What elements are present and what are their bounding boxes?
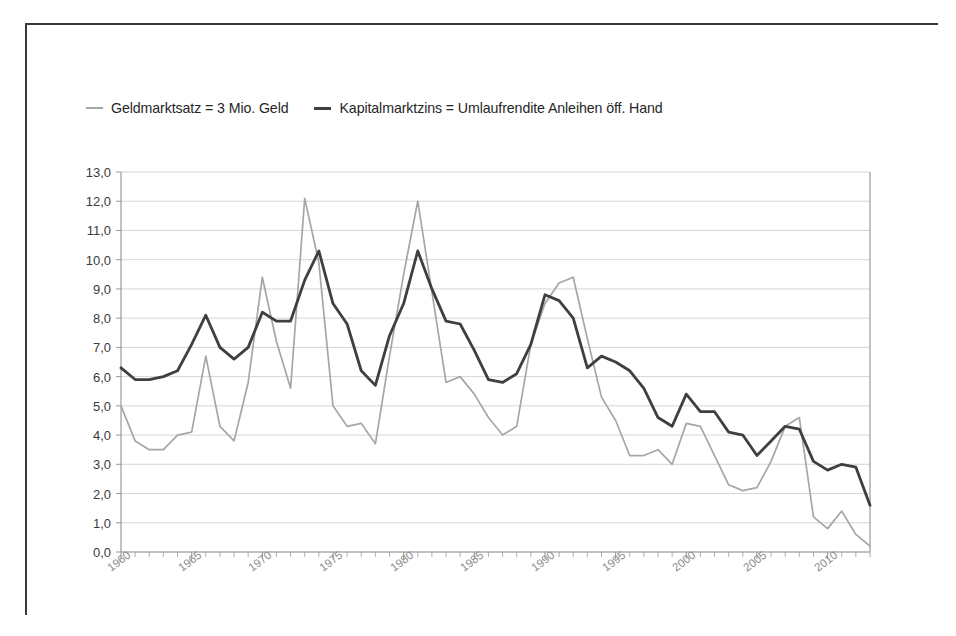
y-tick-label: 0,0 bbox=[65, 545, 111, 560]
y-tick-label: 7,0 bbox=[65, 340, 111, 355]
y-tick-label: 3,0 bbox=[65, 457, 111, 472]
chart-svg bbox=[0, 0, 956, 636]
y-tick-label: 5,0 bbox=[65, 398, 111, 413]
y-tick-label: 10,0 bbox=[65, 252, 111, 267]
chart-series-lines bbox=[121, 198, 870, 546]
y-tick-label: 9,0 bbox=[65, 281, 111, 296]
y-tick-label: 6,0 bbox=[65, 369, 111, 384]
y-tick-label: 12,0 bbox=[65, 194, 111, 209]
y-tick-label: 4,0 bbox=[65, 428, 111, 443]
chart-plot-area: 0,01,02,03,04,05,06,07,08,09,010,011,012… bbox=[0, 0, 956, 636]
y-tick-label: 8,0 bbox=[65, 311, 111, 326]
series-line-geldmarktsatz bbox=[121, 198, 870, 546]
page-canvas: Geldmarktsatz = 3 Mio. Geld Kapitalmarkt… bbox=[0, 0, 956, 636]
y-tick-label: 13,0 bbox=[65, 165, 111, 180]
chart-x-tickmarks bbox=[116, 172, 870, 559]
y-tick-label: 1,0 bbox=[65, 515, 111, 530]
y-tick-label: 11,0 bbox=[65, 223, 111, 238]
y-tick-label: 2,0 bbox=[65, 486, 111, 501]
chart-gridlines bbox=[121, 172, 870, 552]
chart-axes bbox=[121, 172, 870, 552]
